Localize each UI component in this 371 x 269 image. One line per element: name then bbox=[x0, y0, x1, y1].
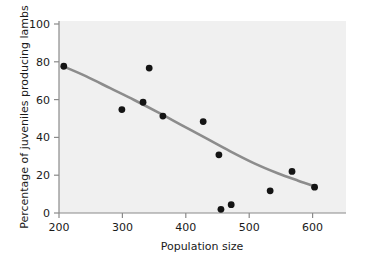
y-tick-label-0: 0 bbox=[43, 207, 50, 220]
x-tick-label-600: 600 bbox=[302, 221, 323, 234]
data-point bbox=[60, 63, 67, 70]
x-tick-label-500: 500 bbox=[239, 221, 260, 234]
x-tick-label-200: 200 bbox=[49, 221, 70, 234]
data-point bbox=[218, 206, 225, 213]
y-tick-label-60: 60 bbox=[36, 94, 50, 107]
x-axis-label: Population size bbox=[161, 240, 244, 253]
data-point bbox=[140, 99, 147, 106]
scatter-chart: 0 20 40 60 80 100 200 300 400 500 600 Po… bbox=[0, 0, 371, 269]
y-tick-label-40: 40 bbox=[36, 131, 50, 144]
data-point bbox=[216, 151, 223, 158]
data-point bbox=[118, 106, 125, 113]
data-point bbox=[159, 113, 166, 120]
x-tick-label-400: 400 bbox=[175, 221, 196, 234]
y-tick-label-100: 100 bbox=[29, 18, 50, 31]
data-point bbox=[267, 187, 274, 194]
data-point bbox=[311, 184, 318, 191]
y-tick-label-80: 80 bbox=[36, 56, 50, 69]
figure-container: 0 20 40 60 80 100 200 300 400 500 600 Po… bbox=[0, 0, 371, 269]
data-point bbox=[146, 65, 153, 72]
data-point bbox=[289, 168, 296, 175]
plot-panel bbox=[59, 21, 346, 213]
data-point bbox=[200, 118, 207, 125]
data-point bbox=[228, 201, 235, 208]
y-axis-label: Percentage of juveniles producing lambs bbox=[18, 5, 31, 229]
y-tick-label-20: 20 bbox=[36, 169, 50, 182]
x-tick-label-300: 300 bbox=[112, 221, 133, 234]
